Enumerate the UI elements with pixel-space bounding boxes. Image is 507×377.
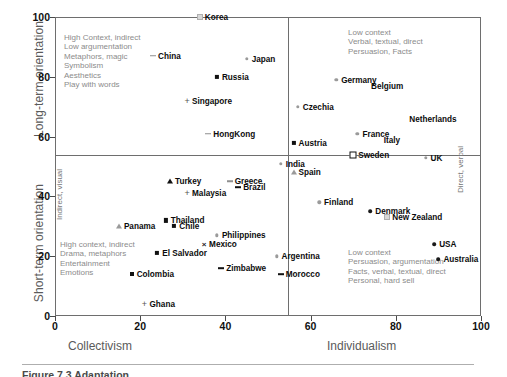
horizontal-divider-line (55, 155, 481, 156)
data-point-label: Ghana (149, 300, 174, 309)
data-point-label: Australia (443, 255, 478, 264)
x-axis-tick-label: 80 (376, 320, 416, 332)
y-axis-tick (50, 137, 55, 138)
data-point-marker-dia (164, 218, 168, 222)
data-point-marker-dotdark (368, 210, 372, 214)
data-point-marker-dash (278, 273, 284, 275)
y-axis-tick-group: 60 (18, 131, 50, 143)
data-point-label: India (286, 159, 305, 168)
annotation-top-left: High Context, indirect Low argumentation… (64, 33, 140, 89)
y-axis-title-short-term: Short-term orientation (32, 163, 46, 323)
data-point-label: Zimbabwe (226, 264, 266, 273)
data-point-label: Sweden (358, 150, 389, 159)
data-point-marker-trig (116, 224, 122, 229)
data-point-label: Turkey (175, 177, 201, 186)
data-point-marker-dotdark (432, 242, 436, 246)
data-point-label: Austria (299, 138, 327, 147)
data-point-label: Morocco (286, 270, 320, 279)
data-point-marker-dia (172, 224, 176, 228)
data-point-label: Brazil (243, 183, 265, 192)
data-point-marker-trig (291, 170, 297, 175)
data-point-label: Panama (124, 222, 155, 231)
y-axis-tick-group: 80 (18, 71, 50, 83)
y-axis-tick (50, 77, 55, 78)
y-axis-tick-group: 100 (18, 11, 50, 23)
data-point-label: Belgium (371, 81, 403, 90)
data-point-label: Korea (205, 13, 228, 22)
figure-container: Long-term orientation Short-term orienta… (0, 0, 507, 377)
y-axis-tick-group: 40 (18, 190, 50, 202)
data-point-label: Argentina (282, 252, 320, 261)
y-axis-tick-label: 100 (24, 11, 50, 23)
data-point-label: Singapore (192, 96, 232, 105)
data-point-marker-dashg (150, 55, 156, 57)
x-axis-title-individualism: Individualism (327, 339, 396, 353)
x-axis-tick-label: 60 (291, 320, 331, 332)
data-point-label: China (158, 51, 181, 60)
data-point-marker-diao (350, 151, 357, 158)
data-point-label: Russia (222, 72, 249, 81)
caption-rule (22, 364, 474, 365)
data-point-label: Philippines (222, 231, 266, 240)
annotation-bottom-left: High context, indirect Drama, metaphors … (60, 240, 135, 278)
side-label-direct-verbal: Direct, verbal (456, 127, 465, 213)
data-point-label: Malaysia (192, 189, 226, 198)
data-point-marker-plus: + (141, 301, 148, 308)
data-point-label: El Salvador (162, 249, 207, 258)
data-point-marker-dashg (205, 133, 211, 135)
data-point-label: Finland (324, 198, 353, 207)
x-axis-tick-label: 0 (35, 320, 75, 332)
data-point-label: Chile (179, 222, 199, 231)
data-point-marker-dash (218, 267, 224, 269)
data-point-label: New Zealand (392, 213, 442, 222)
y-axis-tick (50, 256, 55, 257)
x-axis-tick-label: 20 (120, 320, 160, 332)
data-point-marker-dia (155, 251, 159, 255)
data-point-label: Spain (299, 168, 321, 177)
data-point-marker-plus: + (184, 190, 191, 197)
figure-caption: Figure 7.3 Adaptation ... (22, 369, 141, 377)
y-axis-tick-label: 20 (24, 250, 50, 262)
annotation-top-right: Low context Verbal, textual, direct Pers… (348, 28, 423, 56)
data-point-label: Netherlands (409, 114, 456, 123)
x-axis-tick-label: 40 (205, 320, 245, 332)
y-axis-tick-label: 40 (24, 190, 50, 202)
y-axis-tick (50, 196, 55, 197)
data-point-label: HongKong (213, 129, 255, 138)
data-point-marker-x: × (201, 241, 208, 248)
data-point-marker-dashg (227, 181, 233, 183)
data-point-marker-sq (130, 272, 134, 276)
data-point-marker-tick (197, 14, 203, 20)
y-axis-tick (50, 17, 55, 18)
data-point-marker-dash (235, 187, 241, 189)
data-point-label: USA (439, 240, 456, 249)
data-point-marker-dia (291, 140, 295, 144)
data-point-marker-tri (167, 179, 173, 184)
annotation-bottom-right: Low context Persuasion, argumentation Fa… (348, 248, 446, 286)
data-point-label: UK (431, 153, 443, 162)
x-axis-tick-label: 100 (461, 320, 501, 332)
data-point-marker-plus: + (184, 97, 191, 104)
y-axis-tick-label: 60 (24, 131, 50, 143)
data-point-label: Colombia (137, 270, 174, 279)
side-label-indirect-visual: Indirect, visual (55, 152, 64, 238)
data-point-marker-dotdark (437, 257, 441, 261)
data-point-label: Mexico (209, 240, 237, 249)
data-point-marker-dia (215, 75, 219, 79)
data-point-label: Italy (384, 135, 400, 144)
data-point-label: Japan (252, 54, 276, 63)
y-axis-tick-label: 80 (24, 71, 50, 83)
y-axis-tick-group: 20 (18, 250, 50, 262)
data-point-marker-tick (384, 214, 390, 220)
x-axis-title-collectivism: Collectivism (68, 339, 132, 353)
data-point-label: Czechia (303, 102, 334, 111)
